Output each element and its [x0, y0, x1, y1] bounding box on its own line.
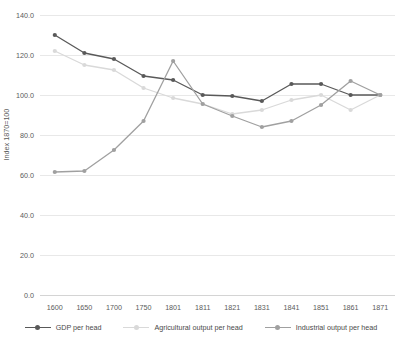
legend-swatch-icon [265, 323, 291, 332]
legend-item[interactable]: Industrial output per head [265, 323, 378, 332]
line-chart: Index 1870=100 0.020.040.060.080.0100.01… [0, 0, 402, 341]
x-axis-tick-label: 1650 [76, 303, 92, 312]
x-axis-tick-label: 1801 [165, 303, 181, 312]
x-axis-tick-label: 1600 [47, 303, 63, 312]
legend-swatch-icon [123, 323, 149, 332]
x-axis-tick-label: 1831 [254, 303, 270, 312]
x-axis-tick-label: 1861 [343, 303, 359, 312]
legend-item[interactable]: GDP per head [25, 323, 102, 332]
legend-label: Industrial output per head [296, 323, 378, 332]
legend-swatch-icon [25, 323, 51, 332]
x-axis-tick-labels: 1600165017001750180118111821183118411851… [0, 0, 402, 341]
chart-legend: GDP per headAgricultural output per head… [0, 318, 402, 336]
x-axis-tick-label: 1841 [283, 303, 299, 312]
x-axis-tick-label: 1851 [313, 303, 329, 312]
x-axis-tick-label: 1750 [136, 303, 152, 312]
legend-label: Agricultural output per head [154, 323, 242, 332]
x-axis-tick-label: 1700 [106, 303, 122, 312]
x-axis-tick-label: 1871 [372, 303, 388, 312]
legend-item[interactable]: Agricultural output per head [123, 323, 242, 332]
legend-label: GDP per head [56, 323, 102, 332]
x-axis-tick-label: 1821 [224, 303, 240, 312]
x-axis-tick-label: 1811 [195, 303, 210, 312]
